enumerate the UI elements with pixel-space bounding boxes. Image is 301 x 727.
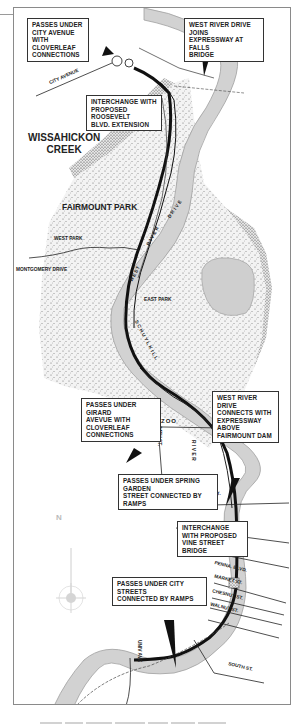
montgomery-drive-label: MONTGOMERY DRIVE — [16, 267, 67, 272]
callout-line: PASSES UNDER SPRING GARDEN — [123, 477, 213, 492]
zoo-label: ZOO — [161, 418, 177, 424]
callout-line: INTERCHANGE WITH — [91, 98, 157, 106]
callout-line: CONNECTIONS — [86, 431, 156, 439]
map-frame: WISSAHICKON CREEK FAIRMOUNT PARK WEST PA… — [13, 7, 291, 705]
west-park-label: WEST PARK — [54, 236, 82, 241]
callout-line: AVEVUE WITH CLOVERLEAF — [86, 416, 156, 431]
callout-fairmount-dam: WEST RIVER DRIVE CONNECTS WITH EXPRESSWA… — [212, 391, 279, 443]
callout-line: PROPOSED ROOSEVELT — [91, 106, 157, 121]
callout-spring-garden: PASSES UNDER SPRING GARDEN STREET CONNEC… — [118, 474, 218, 510]
callout-line: WITH PROPOSED — [182, 532, 243, 540]
callout-line: BLVD. EXTENSION — [91, 121, 157, 129]
callout-line: FAIRMOUNT DAM — [217, 432, 274, 440]
callout-line: PASSES UNDER GIRARD — [86, 401, 156, 416]
callout-city-avenue: PASSES UNDER CITY AVENUE WITH CLOVERLEAF… — [27, 18, 89, 62]
compass-north-label: N — [56, 513, 62, 522]
callout-line: INTERCHANGE — [182, 524, 243, 532]
callout-line: CITY AVENUE WITH — [32, 29, 84, 44]
callout-line: CONNECTED BY RAMPS — [117, 595, 202, 603]
univ-ave-label: UNIV AVE — [137, 640, 142, 662]
edge-rule — [0, 14, 14, 15]
callout-line: EXPRESSWAY ABOVE — [217, 417, 274, 432]
callout-girard: PASSES UNDER GIRARD AVEVUE WITH CLOVERLE… — [81, 398, 161, 442]
creek-label-line1: WISSAHICKON — [28, 132, 100, 144]
callout-line: WEST RIVER DRIVE — [217, 394, 274, 409]
callout-line: VINE STREET BRIDGE — [182, 539, 243, 554]
callout-falls-bridge: WEST RIVER DRIVE JOINS EXPRESSWAY AT FAL… — [184, 18, 264, 62]
caption-blurred — [40, 713, 280, 721]
creek-label-line2: CREEK — [28, 144, 100, 156]
river-label: RIVER — [191, 440, 196, 462]
callout-line: CONNECTS WITH — [217, 409, 274, 417]
callout-line: WEST RIVER DRIVE JOINS — [189, 21, 259, 36]
callout-vine-street: INTERCHANGE WITH PROPOSED VINE STREET BR… — [177, 521, 248, 557]
callout-line: BRIDGE — [189, 51, 259, 59]
east-park-label: EAST PARK — [144, 297, 171, 302]
park-label: FAIRMOUNT PARK — [62, 202, 137, 212]
callout-line: EXPRESSWAY AT FALLS — [189, 36, 259, 51]
creek-label: WISSAHICKON CREEK — [28, 132, 100, 156]
callout-line: STREET CONNECTED BY RAMPS — [123, 492, 213, 507]
callout-line: CLOVERLEAF — [32, 44, 84, 52]
callout-line: PASSES UNDER CITY STREETS — [117, 580, 202, 595]
callout-line: CONNECTIONS — [32, 51, 84, 59]
compass-rose — [56, 548, 86, 613]
callout-roosevelt: INTERCHANGE WITH PROPOSED ROOSEVELT BLVD… — [86, 95, 162, 131]
callout-city-streets: PASSES UNDER CITY STREETS CONNECTED BY R… — [112, 577, 207, 606]
callout-line: PASSES UNDER — [32, 21, 84, 29]
